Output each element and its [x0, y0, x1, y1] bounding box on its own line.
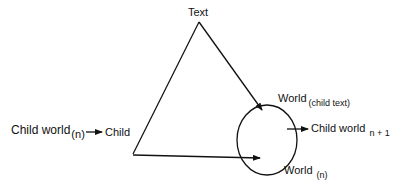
node-child: Child: [105, 127, 130, 138]
node-world-n-subscript: (n): [317, 170, 328, 180]
node-child-label: Child: [105, 126, 130, 138]
node-world-child-text: World(child text): [278, 93, 350, 104]
node-text: Text: [188, 7, 208, 18]
node-child-world-n-label: Child world: [11, 123, 70, 137]
edge-text-to-child: [133, 22, 199, 154]
node-world-n: World(n): [284, 165, 328, 176]
node-text-label: Text: [188, 6, 208, 18]
edge-text-to-world: [199, 22, 262, 110]
node-child-world-n1: Child worldn + 1: [311, 123, 390, 134]
node-world-child-text-label: World: [278, 92, 307, 104]
node-child-world-n1-subscript: n + 1: [369, 128, 389, 138]
node-child-world-n1-label: Child world: [311, 122, 365, 134]
node-world-n-label: World: [284, 164, 313, 176]
node-world-child-text-subscript: (child text): [309, 98, 351, 108]
node-child-world-n-subscript: (n): [71, 128, 84, 140]
node-child-world-n: Child world(n): [11, 124, 85, 136]
